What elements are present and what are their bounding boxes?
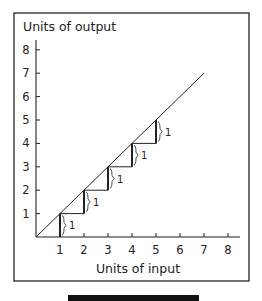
increment-label: 1 — [69, 220, 75, 231]
y-tick-label: 2 — [22, 183, 29, 197]
x-axis-label: Units of input — [96, 261, 180, 276]
increment-label: 1 — [165, 127, 171, 138]
chart: Units of output Units of input 12345678 … — [0, 0, 262, 301]
increment-label: 1 — [117, 174, 123, 185]
increment-label: 1 — [93, 197, 99, 208]
x-tick-label: 2 — [80, 243, 87, 257]
x-tick-label: 3 — [104, 243, 111, 257]
y-tick-label: 4 — [22, 136, 29, 150]
y-tick-label: 8 — [22, 43, 29, 57]
y-tick-label: 7 — [22, 66, 29, 80]
y-tick-label: 3 — [22, 160, 29, 174]
increment-label: 1 — [141, 150, 147, 161]
y-tick-label: 5 — [22, 113, 29, 127]
x-tick-label: 8 — [224, 243, 231, 257]
x-tick-label: 4 — [128, 243, 135, 257]
footer-bar — [68, 295, 199, 301]
y-tick-label: 1 — [22, 207, 29, 221]
x-tick-label: 7 — [200, 243, 207, 257]
x-tick-label: 6 — [176, 243, 183, 257]
x-tick-label: 5 — [152, 243, 159, 257]
x-tick-label: 1 — [56, 243, 63, 257]
y-tick-label: 6 — [22, 90, 29, 104]
y-axis-label: Units of output — [23, 19, 116, 34]
